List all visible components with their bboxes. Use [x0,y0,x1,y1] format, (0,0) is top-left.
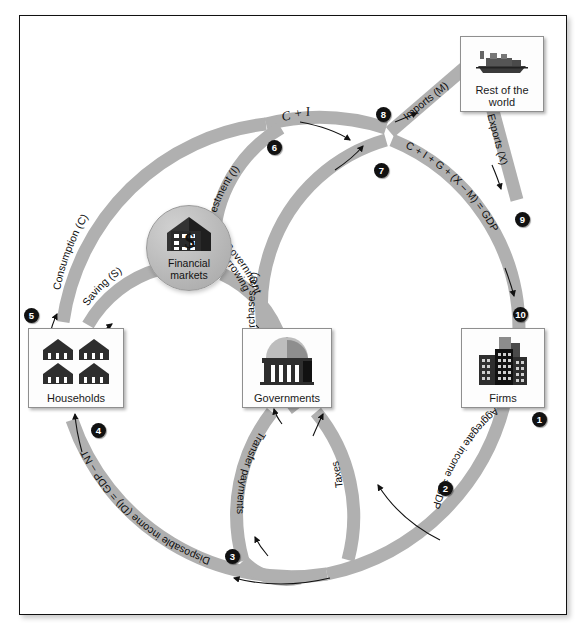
rest-of-world-line2: world [489,96,515,108]
flow-bands [63,58,519,580]
step-marker-5: 5 [24,308,39,323]
step-marker-7: 7 [374,163,389,178]
diagram-canvas: Aggregate income = GDP Taxes Disposable … [0,0,587,636]
node-rest-of-world-label: Rest of the world [475,84,528,108]
node-rest-of-world[interactable]: Rest of the world [460,36,544,112]
financial-markets-line1: Financial [168,257,210,269]
step-marker-3: 3 [225,549,240,564]
node-governments-label: Governments [254,392,320,404]
financial-markets-line2: markets [170,269,207,281]
houses-icon [29,329,123,392]
step-marker-10: 10 [513,307,528,322]
step-marker-2: 2 [438,481,453,496]
capitol-building-icon [243,329,331,392]
step-marker-9: 9 [515,212,530,227]
office-buildings-icon [462,329,544,392]
svg-text:$: $ [185,229,196,253]
node-firms-label: Firms [489,392,517,404]
node-households[interactable]: Households [28,328,124,408]
flow-label-imports: Imports (M) [401,79,450,122]
flow-label-disposable-income: Disposable income (DI) = GDP – NT [77,448,211,568]
step-marker-6: 6 [267,140,282,155]
step-marker-1: 1 [532,412,547,427]
node-firms[interactable]: Firms [461,328,545,408]
step-marker-4: 4 [91,423,106,438]
cargo-ship-icon [461,37,543,84]
node-financial-markets-label: Financial markets [168,258,210,281]
rest-of-world-line1: Rest of the [475,84,528,96]
node-households-label: Households [47,392,105,404]
node-financial-markets[interactable]: $ Financial markets [146,205,232,291]
bank-dollar-icon: $ [165,215,213,257]
step-marker-8: 8 [376,107,391,122]
node-governments[interactable]: Governments [242,328,332,408]
